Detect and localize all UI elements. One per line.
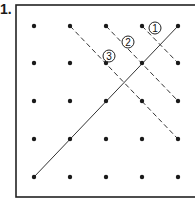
- grid-dot: [176, 24, 180, 28]
- grid-dot: [68, 24, 72, 28]
- grid-dot: [68, 175, 72, 179]
- grid-dot: [32, 175, 36, 179]
- label-number-2: 2: [125, 37, 131, 48]
- label-number-1: 1: [152, 23, 158, 34]
- grid-dot: [176, 137, 180, 141]
- grid-dot: [140, 61, 144, 65]
- grid-dot: [104, 99, 108, 103]
- grid-dot: [140, 99, 144, 103]
- grid-dot: [32, 61, 36, 65]
- grid-dot: [32, 137, 36, 141]
- grid-dot: [32, 24, 36, 28]
- grid-dot: [68, 61, 72, 65]
- grid-dot: [104, 175, 108, 179]
- grid-dot: [32, 99, 36, 103]
- grid-dot: [140, 175, 144, 179]
- grid-dot: [176, 61, 180, 65]
- grid-dot: [140, 137, 144, 141]
- grid-dot: [176, 99, 180, 103]
- grid-dot: [140, 24, 144, 28]
- grid-dot: [176, 175, 180, 179]
- grid-dot: [104, 24, 108, 28]
- grid-dot: [68, 99, 72, 103]
- grid-dot: [104, 137, 108, 141]
- dot-grid-diagram: 123: [0, 0, 195, 200]
- grid-dot: [68, 137, 72, 141]
- label-number-3: 3: [106, 51, 112, 62]
